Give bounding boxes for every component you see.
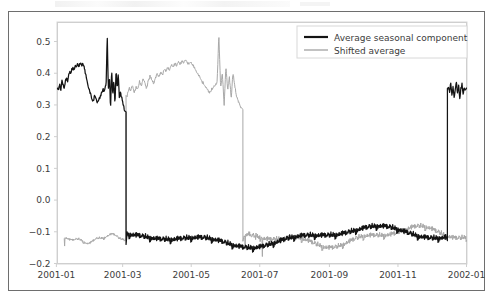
x-tick-label: 2001-05 [172, 270, 210, 280]
figure-container: −0.2−0.10.00.10.20.30.40.5 2001-012001-0… [0, 0, 493, 303]
x-axis-ticks: 2001-012001-032001-052001-072001-092001-… [38, 264, 486, 280]
x-tick-label: 2001-09 [311, 270, 349, 280]
y-tick-label: −0.1 [29, 227, 51, 237]
legend-label-shifted-average: Shifted average [334, 46, 406, 56]
y-tick-label: 0.2 [36, 132, 50, 142]
x-tick-label: 2001-11 [379, 270, 417, 280]
legend-label-average-seasonal-component: Average seasonal component [334, 33, 468, 43]
y-tick-label: 0.5 [36, 37, 50, 47]
y-axis-ticks: −0.2−0.10.00.10.20.30.40.5 [29, 37, 58, 269]
y-tick-label: 0.0 [36, 195, 51, 205]
x-tick-label: 2001-07 [241, 270, 279, 280]
line-chart: −0.2−0.10.00.10.20.30.40.5 2001-012001-0… [0, 0, 493, 303]
y-tick-label: 0.1 [36, 164, 50, 174]
y-tick-label: 0.3 [36, 100, 50, 110]
y-tick-label: −0.2 [29, 259, 51, 269]
x-tick-label: 2001-01 [38, 270, 76, 280]
x-tick-label: 2002-01 [448, 270, 486, 280]
legend[interactable]: Average seasonal component Shifted avera… [297, 26, 468, 58]
y-tick-label: 0.4 [36, 68, 51, 78]
x-tick-label: 2001-03 [104, 270, 142, 280]
